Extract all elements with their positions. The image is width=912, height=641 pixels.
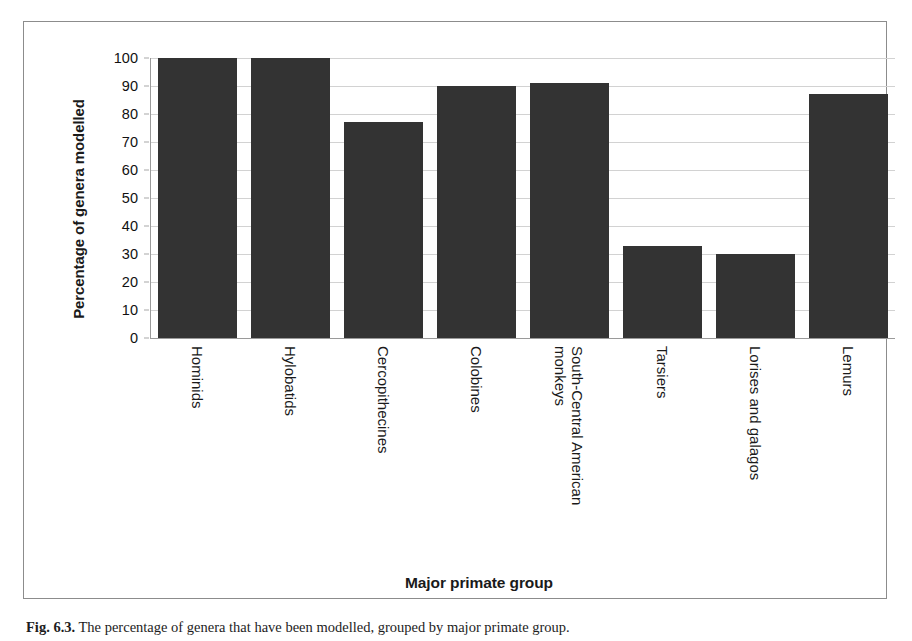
- bar[interactable]: [158, 58, 236, 338]
- y-axis-tick-label: 30: [122, 246, 138, 262]
- x-label-slot: Cercopithecines: [336, 342, 429, 542]
- x-axis-title: Major primate group: [47, 574, 911, 592]
- x-label-slot: Lemurs: [801, 342, 894, 542]
- bar-slot: [337, 58, 430, 338]
- x-axis-category-label: Tarsiers: [653, 346, 670, 399]
- bar[interactable]: [251, 58, 329, 338]
- x-label-slot: Tarsiers: [615, 342, 708, 542]
- figure-caption-text: The percentage of genera that have been …: [79, 619, 570, 635]
- x-axis-category-label: Hylobatids: [281, 346, 298, 416]
- y-axis-tickmark: [144, 170, 149, 171]
- x-label-slot: South-Central Americanmonkeys: [522, 342, 615, 542]
- y-axis-tickmark: [144, 310, 149, 311]
- bar[interactable]: [623, 246, 701, 338]
- y-axis-tick-label: 60: [122, 162, 138, 178]
- bars-layer: [151, 58, 895, 338]
- x-axis-category-label: Cercopithecines: [374, 346, 391, 454]
- bar[interactable]: [716, 254, 794, 338]
- x-axis-category-label: South-Central Americanmonkeys: [552, 346, 586, 536]
- bar-slot: [244, 58, 337, 338]
- y-axis-tick-label: 40: [122, 218, 138, 234]
- y-axis-ticks: 1009080706050403020100: [104, 58, 144, 338]
- y-axis-tickmark: [144, 114, 149, 115]
- y-axis-tickmark: [144, 226, 149, 227]
- x-axis-category-label: Colobines: [467, 346, 484, 413]
- x-label-slot: Colobines: [429, 342, 522, 542]
- y-axis-tickmark: [144, 198, 149, 199]
- x-axis-category-labels: HominidsHylobatidsCercopithecinesColobin…: [150, 342, 894, 542]
- x-axis-category-label-line: monkeys: [552, 346, 569, 536]
- y-axis-tickmark: [144, 142, 149, 143]
- x-label-slot: Hominids: [150, 342, 243, 542]
- figure-caption: Fig. 6.3. The percentage of genera that …: [26, 618, 888, 637]
- plot-region: 1009080706050403020100: [104, 58, 894, 348]
- figure-caption-label: Fig. 6.3.: [26, 619, 75, 635]
- bar-slot: [523, 58, 616, 338]
- y-axis-tick-label: 70: [122, 134, 138, 150]
- bar-slot: [616, 58, 709, 338]
- y-axis-tick-label: 90: [122, 78, 138, 94]
- y-axis-tickmark: [144, 86, 149, 87]
- bar[interactable]: [809, 94, 887, 338]
- x-axis-category-label: Lemurs: [839, 346, 856, 396]
- bar-slot: [430, 58, 523, 338]
- y-axis-tick-label: 0: [130, 330, 138, 346]
- bar-slot: [802, 58, 895, 338]
- x-axis-category-label: Hominids: [188, 346, 205, 409]
- y-axis-tick-label: 100: [114, 50, 138, 66]
- plot-area: [150, 58, 895, 339]
- y-axis-tick-label: 10: [122, 302, 138, 318]
- bar[interactable]: [530, 83, 608, 338]
- figure-frame: Percentage of genera modelled 1009080706…: [23, 21, 887, 599]
- bar[interactable]: [437, 86, 515, 338]
- x-label-slot: Lorises and galagos: [708, 342, 801, 542]
- y-axis-tickmark: [144, 58, 149, 59]
- y-axis-tick-label: 50: [122, 190, 138, 206]
- bar-slot: [151, 58, 244, 338]
- bar[interactable]: [344, 122, 422, 338]
- y-axis-tick-label: 20: [122, 274, 138, 290]
- y-axis-title: Percentage of genera modelled: [68, 64, 90, 354]
- y-axis-tickmark: [144, 338, 149, 339]
- y-axis-tickmark: [144, 282, 149, 283]
- x-axis-category-label: Lorises and galagos: [746, 346, 763, 480]
- bar-slot: [709, 58, 802, 338]
- x-axis-category-label-line: South-Central American: [569, 346, 586, 505]
- x-label-slot: Hylobatids: [243, 342, 336, 542]
- y-axis-tickmark: [144, 254, 149, 255]
- y-axis-tick-label: 80: [122, 106, 138, 122]
